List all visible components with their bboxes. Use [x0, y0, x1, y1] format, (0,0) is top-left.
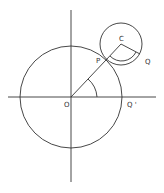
- label-c: C: [119, 35, 124, 43]
- angle-arc-c: [110, 52, 136, 61]
- label-o: O: [64, 101, 70, 109]
- diagram-canvas: C P Q O Q ': [0, 0, 164, 193]
- label-p: P: [96, 57, 100, 65]
- segment-pc: [106, 44, 121, 60]
- segment-cq: [121, 44, 140, 54]
- label-q-prime: Q ': [127, 101, 137, 109]
- angle-arc-o: [88, 79, 97, 97]
- radius-op: [71, 60, 106, 97]
- label-q: Q: [145, 58, 151, 66]
